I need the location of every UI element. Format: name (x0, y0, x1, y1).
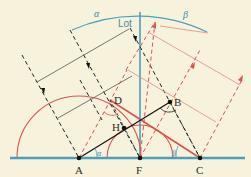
point-C (198, 156, 203, 161)
label-beta-top: β (182, 9, 188, 20)
label-alpha-top: α (94, 8, 100, 19)
label-lot: Lot (118, 18, 132, 29)
point-B (168, 100, 173, 105)
point-A (77, 156, 82, 161)
refraction-diagram: A F C D B H Lot α β α β (0, 0, 251, 177)
label-B: B (174, 96, 181, 108)
label-F: F (136, 164, 142, 176)
point-H (122, 126, 127, 131)
label-C: C (196, 164, 203, 176)
label-beta-bottom: β (171, 149, 176, 158)
label-H: H (112, 121, 120, 133)
label-A: A (75, 164, 83, 176)
point-F (138, 156, 143, 161)
label-D: D (114, 94, 122, 106)
